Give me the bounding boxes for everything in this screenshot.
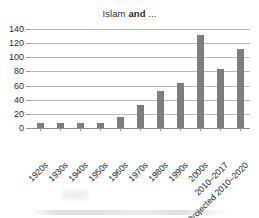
x-axis-label: 1920s bbox=[26, 160, 50, 184]
x-tick-mark bbox=[40, 128, 41, 131]
y-axis-label: 80 bbox=[14, 66, 24, 76]
bar[interactable] bbox=[117, 117, 124, 128]
chart-title: Islam and ... bbox=[0, 8, 259, 19]
bar[interactable] bbox=[197, 35, 204, 128]
x-tick-mark bbox=[60, 128, 61, 131]
y-axis-label: 100 bbox=[9, 52, 24, 62]
y-axis-label: 120 bbox=[9, 38, 24, 48]
y-axis-label: 140 bbox=[9, 24, 24, 34]
x-axis-label: 1970s bbox=[126, 160, 150, 184]
chart-title-post: ... bbox=[146, 8, 157, 19]
y-tick-mark bbox=[26, 86, 30, 87]
gridline bbox=[30, 29, 250, 30]
scan-artifact-line bbox=[30, 210, 230, 215]
y-tick-mark bbox=[26, 100, 30, 101]
bar[interactable] bbox=[217, 69, 224, 128]
x-tick-mark bbox=[200, 128, 201, 131]
x-axis-label: 1980s bbox=[146, 160, 170, 184]
bar[interactable] bbox=[157, 91, 164, 128]
x-axis-label: 1990s bbox=[166, 160, 190, 184]
x-tick-mark bbox=[240, 128, 241, 131]
y-axis-label: 20 bbox=[14, 109, 24, 119]
y-tick-mark bbox=[26, 43, 30, 44]
x-tick-mark bbox=[180, 128, 181, 131]
bar[interactable] bbox=[237, 49, 244, 128]
bar[interactable] bbox=[137, 105, 144, 128]
y-tick-mark bbox=[26, 128, 30, 129]
plot-area: 0204060801001201401920s1930s1940s1950s19… bbox=[30, 29, 250, 128]
chart-figure: Islam and ... 0204060801001201401920s193… bbox=[0, 0, 259, 218]
bar[interactable] bbox=[177, 83, 184, 128]
x-axis-label: 1940s bbox=[66, 160, 90, 184]
x-tick-mark bbox=[140, 128, 141, 131]
y-axis-label: 40 bbox=[14, 95, 24, 105]
y-tick-mark bbox=[26, 71, 30, 72]
scan-smudge bbox=[62, 190, 88, 200]
x-tick-mark bbox=[100, 128, 101, 131]
chart-title-emphasis: and bbox=[128, 8, 145, 19]
x-tick-mark bbox=[220, 128, 221, 131]
x-tick-mark bbox=[120, 128, 121, 131]
gridline bbox=[30, 57, 250, 58]
x-axis-label: 1960s bbox=[106, 160, 130, 184]
y-tick-mark bbox=[26, 57, 30, 58]
y-tick-mark bbox=[26, 114, 30, 115]
x-tick-mark bbox=[80, 128, 81, 131]
gridline bbox=[30, 43, 250, 44]
x-axis-label: 1950s bbox=[86, 160, 110, 184]
y-axis-label: 0 bbox=[19, 123, 24, 133]
y-axis-label: 60 bbox=[14, 81, 24, 91]
y-tick-mark bbox=[26, 29, 30, 30]
x-tick-mark bbox=[160, 128, 161, 131]
chart-title-pre: Islam bbox=[102, 8, 128, 19]
x-axis-label: 1930s bbox=[46, 160, 70, 184]
